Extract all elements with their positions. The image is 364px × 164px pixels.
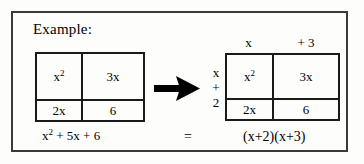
cell-top-left: x2: [37, 54, 83, 101]
area-model-factored: x2 3x 2x 6: [225, 53, 340, 121]
cell-top-right: 3x: [83, 54, 143, 101]
cell-top-right-value: 3x: [300, 69, 313, 85]
cell-bottom-right: 6: [83, 101, 143, 120]
left-factor-1: x: [209, 66, 223, 79]
left-factor-labels: x + 2: [209, 66, 223, 111]
example-heading: Example:: [33, 21, 92, 38]
cell-top-left: x2: [227, 55, 274, 100]
cell-top-left-value: x2: [244, 69, 255, 85]
worksheet-figure: Example: x2 3x 2x 6 x2 + 5x + 6 x + 3 x …: [0, 0, 364, 164]
top-factor-1: x: [225, 34, 272, 51]
area-model-expanded: x2 3x 2x 6: [35, 52, 145, 122]
cell-bottom-right-value: 6: [303, 102, 310, 118]
factored-expression: (x+2)(x+3): [243, 129, 305, 145]
left-factor-3: 2: [209, 96, 223, 109]
top-factor-labels: x + 3: [225, 34, 340, 51]
cell-bottom-left: 2x: [227, 100, 274, 119]
arrow-right-icon: [154, 74, 200, 104]
cell-top-right: 3x: [274, 55, 338, 100]
top-factor-2: + 3: [272, 34, 340, 51]
cell-bottom-left-value: 2x: [53, 103, 66, 119]
cell-bottom-right: 6: [274, 100, 338, 119]
cell-bottom-right-value: 6: [110, 103, 117, 119]
cell-top-left-value: x2: [54, 69, 65, 85]
equals-sign: =: [184, 129, 192, 145]
cell-bottom-left-value: 2x: [243, 102, 256, 118]
left-factor-2: +: [209, 81, 223, 94]
cell-top-right-value: 3x: [107, 69, 120, 85]
cell-bottom-left: 2x: [37, 101, 83, 120]
expanded-expression: x2 + 5x + 6: [42, 128, 100, 144]
